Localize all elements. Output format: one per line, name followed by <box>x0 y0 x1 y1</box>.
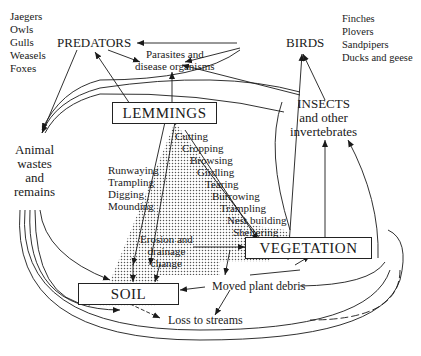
vegetation-action: Cutting <box>175 131 208 142</box>
bird-species: Ducks and geese <box>342 51 413 64</box>
predator-species: Foxes <box>10 62 46 75</box>
predator-species: Jaegers <box>10 10 46 23</box>
birds-node: BIRDS <box>286 36 324 49</box>
moved-plant-debris-node: Moved plant debris <box>212 280 305 292</box>
vegetation-action: Girdling <box>197 167 234 178</box>
parasites-line: disease organisms <box>135 60 215 72</box>
soil-action: Trampling <box>108 176 159 188</box>
parasites-node: Parasites and disease organisms <box>135 48 215 72</box>
loss-to-streams-node: Loss to streams <box>168 314 243 326</box>
animal-wastes-line: and <box>14 171 55 185</box>
parasites-line: Parasites and <box>135 48 215 60</box>
soil-node: SOIL <box>78 283 179 305</box>
predator-species: Weasels <box>10 49 46 62</box>
soil-actions-list: Runwaying Trampling Digging Mounding <box>108 164 159 212</box>
vegetation-action: Tearing <box>205 179 238 190</box>
insects-line: invertebrates <box>290 125 357 139</box>
lemmings-label: LEMMINGS <box>122 105 206 122</box>
erosion-line: Erosion and <box>140 233 193 245</box>
predator-species: Owls <box>10 23 46 36</box>
soil-action: Digging <box>108 188 159 200</box>
vegetation-action: Cropping <box>182 143 224 154</box>
erosion-line: drainage <box>140 245 193 257</box>
predators-node: PREDATORS <box>57 36 131 49</box>
insects-line: INSECTS <box>290 97 357 111</box>
bird-species: Plovers <box>342 25 413 38</box>
soil-action: Runwaying <box>108 164 159 176</box>
erosion-node: Erosion and drainage change <box>140 233 193 269</box>
erosion-line: change <box>140 257 193 269</box>
soil-action: Mounding <box>108 200 159 212</box>
soil-label: SOIL <box>111 286 146 303</box>
predator-species-list: Jaegers Owls Gulls Weasels Foxes <box>10 10 46 75</box>
insects-node: INSECTS and other invertebrates <box>290 97 357 139</box>
vegetation-node: VEGETATION <box>245 237 372 259</box>
vegetation-action: Burrowing <box>212 191 260 202</box>
animal-wastes-line: wastes <box>14 157 55 171</box>
animal-wastes-line: Animal <box>14 143 55 157</box>
vegetation-label: VEGETATION <box>260 240 358 257</box>
bird-species-list: Finches Plovers Sandpipers Ducks and gee… <box>342 12 413 64</box>
vegetation-action: Browsing <box>190 155 233 166</box>
animal-wastes-node: Animal wastes and remains <box>14 143 55 199</box>
animal-wastes-line: remains <box>14 185 55 199</box>
vegetation-action: Nest building <box>227 215 287 226</box>
bird-species: Finches <box>342 12 413 25</box>
lemmings-node: LEMMINGS <box>112 102 217 124</box>
insects-line: and other <box>290 111 357 125</box>
predator-species: Gulls <box>10 36 46 49</box>
vegetation-action: Trampling <box>220 203 266 214</box>
bird-species: Sandpipers <box>342 38 413 51</box>
